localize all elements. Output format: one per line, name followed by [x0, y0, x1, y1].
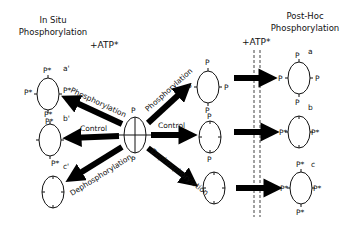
cell-b-prime-bottom: P* [51, 159, 59, 168]
middle-cell-1-top: P [205, 58, 210, 67]
label-control-right: Control [158, 121, 185, 130]
post-hoc-cell-b-label: b [308, 103, 313, 112]
title-post-hoc-line2: Phosphorylation [262, 24, 346, 33]
post-hoc-cell-c-right: P* [313, 184, 321, 193]
cell-a-prime-top: P* [43, 66, 51, 75]
cell-b-prime-top: P* [45, 117, 53, 126]
post-hoc-cell-a-bottom: P [295, 98, 300, 107]
post-hoc-cell-a-left: P [278, 74, 283, 83]
title-in-situ-line1: In Situ [18, 16, 88, 25]
post-hoc-cell-b [285, 116, 313, 148]
cell-a-prime-right: P* [63, 86, 71, 95]
cell-c-prime-label: c' [63, 162, 69, 171]
post-hoc-cell-a [285, 59, 313, 97]
in-situ-cell-b-prime [36, 121, 64, 159]
post-hoc-cell-c-left: P* [280, 184, 288, 193]
cell-a-prime-left: P* [24, 88, 32, 97]
center-cell [119, 117, 151, 153]
cell-a-prime-label: a' [63, 64, 70, 73]
post-hoc-cell-b-left: P* [279, 128, 287, 137]
post-hoc-cell-c-top: P* [296, 160, 304, 169]
arrow-control-left [70, 136, 119, 138]
post-hoc-cell-a-top: P [295, 51, 300, 60]
post-hoc-cell-a-label: a [308, 47, 313, 56]
post-hoc-cell-c-bottom: P* [296, 208, 304, 217]
in-situ-cell-c-prime [42, 176, 64, 208]
title-post-hoc-line1: Post-Hoc [270, 12, 340, 21]
atp-right: +ATP* [242, 38, 270, 47]
post-hoc-cell-c-label: c [311, 160, 315, 169]
cell-b-prime-label: b' [63, 114, 70, 123]
post-hoc-cell-a-right: P [315, 74, 320, 83]
center-cell-top-p: P [131, 106, 136, 115]
in-situ-cell-a-prime [34, 75, 62, 113]
middle-cell-1-left: P [187, 83, 192, 92]
title-in-situ-line2: Phosphorylation [10, 28, 96, 37]
middle-cell-2 [199, 121, 221, 153]
center-cell-bottom-p: P [131, 155, 136, 164]
phosphorylation-diagram: Phosphorylation Control Dephosphorylatio… [0, 0, 346, 227]
label-dephosphorylation-right: Dephosphorylation [149, 146, 211, 197]
post-hoc-cell-c [287, 169, 315, 207]
label-control-left: Control [80, 124, 107, 133]
middle-cell-2-bottom: P [207, 155, 212, 164]
post-hoc-cell-b-right: P* [311, 128, 319, 137]
atp-left: +ATP* [90, 41, 118, 50]
middle-cell-1 [194, 68, 222, 106]
middle-cell-1-right: P [224, 83, 229, 92]
middle-cell-2-top: P [207, 112, 212, 121]
